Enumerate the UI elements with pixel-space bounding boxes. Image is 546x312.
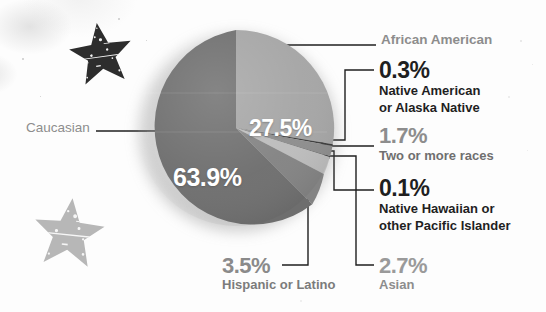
callout-caucasian-label: Caucasian	[26, 120, 90, 135]
callout-native-hawaiian-label-line1: Native Hawaiian or	[379, 202, 511, 217]
callout-asian[interactable]: 2.7% Asian	[379, 255, 427, 293]
callout-native-hawaiian-label-line2: other Pacific Islander	[379, 219, 511, 234]
callout-two-or-more-races-label: Two or more races	[379, 149, 494, 164]
infographic-canvas: 27.5% 63.9% African American 0.3% Native…	[0, 0, 546, 312]
callout-asian-percent: 2.7%	[379, 255, 427, 277]
callout-native-hawaiian[interactable]: 0.1% Native Hawaiian or other Pacific Is…	[379, 177, 511, 233]
callout-hispanic-or-latino[interactable]: 3.5% Hispanic or Latino	[222, 255, 335, 293]
callout-african-american[interactable]: African American	[381, 32, 492, 47]
callout-native-american-label-line1: Native American	[379, 84, 480, 99]
callout-native-hawaiian-percent: 0.1%	[379, 177, 511, 200]
callout-two-or-more-races[interactable]: 1.7% Two or more races	[379, 125, 494, 164]
callout-two-or-more-races-percent: 1.7%	[379, 125, 494, 147]
callout-hispanic-or-latino-label: Hispanic or Latino	[222, 278, 335, 293]
pie-label-caucasian-percent: 63.9%	[173, 163, 241, 192]
callout-hispanic-or-latino-percent: 3.5%	[222, 255, 335, 277]
callout-native-american[interactable]: 0.3% Native American or Alaska Native	[379, 59, 480, 115]
callout-african-american-label: African American	[381, 32, 492, 47]
callout-native-american-percent: 0.3%	[379, 59, 480, 82]
callout-caucasian[interactable]: Caucasian	[26, 120, 90, 135]
pie-label-african-american-percent: 27.5%	[249, 115, 312, 142]
pie-chart: 27.5% 63.9%	[137, 29, 335, 227]
callout-native-american-label-line2: or Alaska Native	[379, 101, 480, 116]
callout-asian-label: Asian	[379, 278, 427, 293]
